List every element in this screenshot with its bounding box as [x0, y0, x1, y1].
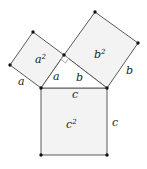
side-c-top-label: c: [72, 88, 78, 101]
vertex-a-c: [39, 86, 42, 89]
vertex-c-square-bottom-right: [105, 153, 108, 156]
vertex-right-angle: [62, 53, 65, 56]
side-c-right-label: c: [112, 116, 118, 129]
side-b-inner-label: b: [76, 71, 83, 84]
vertex-a-square-top: [31, 30, 34, 33]
vertex-c-square-bottom-left: [39, 153, 42, 156]
vertex-a-square-left: [8, 63, 11, 66]
vertex-b-square-top: [93, 10, 96, 13]
side-b-outer-label: b: [126, 64, 133, 77]
side-a-inner-label: a: [53, 70, 60, 83]
vertex-b-square-right: [136, 41, 139, 44]
vertex-b-c: [105, 86, 108, 89]
pythagorean-diagram: a2 b2 c2 a a b b c c: [0, 0, 147, 169]
side-a-outer-label: a: [18, 75, 25, 88]
